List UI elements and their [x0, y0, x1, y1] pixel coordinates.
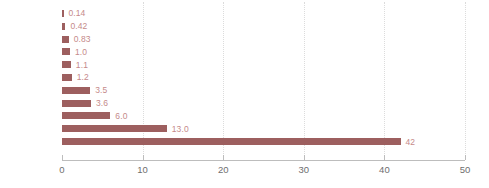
x-tick: [304, 155, 305, 160]
bar-row: 6.0頸部: [62, 110, 465, 123]
bar-value-label: 0.83: [74, 33, 91, 45]
bar-chart: 0.14足底0.42足首0.83手掌1.0前腕内側1.1前腕外側1.2背中3.5…: [0, 0, 489, 188]
bar-row: 1.1前腕外側: [62, 58, 465, 71]
bar-row: 1.2背中: [62, 71, 465, 84]
bar-value-label: 42: [406, 136, 416, 148]
x-tick: [384, 155, 385, 160]
plot-area: 0.14足底0.42足首0.83手掌1.0前腕内側1.1前腕外側1.2背中3.5…: [62, 0, 465, 160]
bar-value-label: 1.2: [77, 71, 89, 83]
x-tick-label: 30: [299, 164, 310, 176]
x-tick: [62, 155, 63, 160]
x-tick-label: 50: [460, 164, 471, 176]
x-tick: [465, 155, 466, 160]
bar-value-label: 3.6: [96, 97, 108, 109]
bar-value-label: 0.42: [70, 20, 87, 32]
x-tick: [223, 155, 224, 160]
bar[interactable]: [62, 61, 71, 68]
x-tick-label: 20: [218, 164, 229, 176]
bar[interactable]: [62, 138, 401, 145]
bar-value-label: 1.0: [75, 46, 87, 58]
x-tick-label: 10: [137, 164, 148, 176]
x-tick-label: 0: [59, 164, 64, 176]
bar-value-label: 6.0: [115, 110, 127, 122]
bar[interactable]: [62, 48, 70, 55]
bar-row: 3.5頭皮: [62, 84, 465, 97]
bar-value-label: 0.14: [69, 7, 86, 19]
bar-value-label: 3.5: [95, 84, 107, 96]
bar-row: 0.14足底: [62, 7, 465, 20]
bar-row: 0.42足首: [62, 20, 465, 33]
gridline: [465, 2, 466, 160]
bar-value-label: 1.1: [76, 59, 88, 71]
bar[interactable]: [62, 10, 64, 17]
bar[interactable]: [62, 36, 69, 43]
bar[interactable]: [62, 125, 167, 132]
bar-row: 42陰嚢: [62, 135, 465, 148]
bar-row: 13.0頬部: [62, 122, 465, 135]
x-tick-label: 40: [379, 164, 390, 176]
bar-row: 3.6腋窩: [62, 97, 465, 110]
bar-row: 1.0前腕内側: [62, 45, 465, 58]
bar[interactable]: [62, 100, 91, 107]
bar[interactable]: [62, 87, 90, 94]
bar[interactable]: [62, 23, 65, 30]
x-axis-line: [62, 160, 465, 161]
bar[interactable]: [62, 112, 110, 119]
bar-value-label: 13.0: [172, 123, 189, 135]
x-tick: [143, 155, 144, 160]
bar-row: 0.83手掌: [62, 33, 465, 46]
bar[interactable]: [62, 74, 72, 81]
